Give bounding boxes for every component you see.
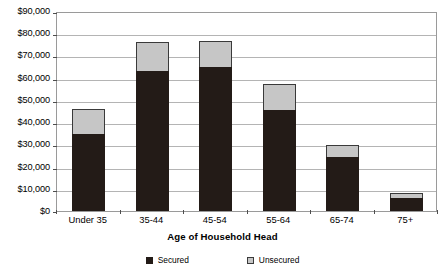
x-tick-label: 55-64 <box>247 214 311 226</box>
x-axis-tick <box>120 210 121 214</box>
x-axis-labels: Under 3535-4445-5455-6465-7475+ <box>56 214 437 230</box>
bars-layer <box>57 13 436 211</box>
x-axis-tick <box>374 210 375 214</box>
legend-swatch-unsecured-icon <box>247 257 254 264</box>
legend-label-unsecured: Unsecured <box>259 255 300 265</box>
bar-segment-secured <box>326 157 359 211</box>
bar-stack <box>199 41 232 211</box>
x-tick-label: Under 35 <box>56 214 120 226</box>
bar-segment-secured <box>199 67 232 211</box>
bar-stack <box>72 109 105 211</box>
bar-group <box>72 13 105 211</box>
y-tick-label: $70,000 <box>17 51 50 60</box>
bar-segment-secured <box>263 110 296 211</box>
y-tick-label: $50,000 <box>17 96 50 105</box>
bar-segment-secured <box>72 134 105 211</box>
y-tick-label: $90,000 <box>17 7 50 16</box>
legend-label-secured: Secured <box>158 255 189 265</box>
bar-group <box>326 13 359 211</box>
x-tick-label: 65-74 <box>310 214 374 226</box>
y-tick-label: $40,000 <box>17 118 50 127</box>
bar-segment-unsecured <box>199 41 232 67</box>
x-axis-tick <box>310 210 311 214</box>
chart-legend: Secured Unsecured <box>0 252 445 268</box>
legend-item-secured: Secured <box>146 255 189 265</box>
legend-item-unsecured: Unsecured <box>247 255 300 265</box>
bar-group <box>199 13 232 211</box>
x-tick-label: 35-44 <box>120 214 184 226</box>
x-axis-tick <box>183 210 184 214</box>
bar-segment-unsecured <box>136 42 169 71</box>
legend-swatch-secured-icon <box>146 257 153 264</box>
x-tick-label: 75+ <box>374 214 438 226</box>
x-tick-label: 45-54 <box>183 214 247 226</box>
bar-group <box>263 13 296 211</box>
y-tick-label: $80,000 <box>17 29 50 38</box>
bar-group <box>136 13 169 211</box>
y-tick-label: $0 <box>40 207 50 216</box>
stacked-bar-chart: $0$10,000$20,000$30,000$40,000$50,000$60… <box>0 0 445 272</box>
y-tick-label: $20,000 <box>17 163 50 172</box>
y-tick-label: $10,000 <box>17 185 50 194</box>
bar-stack <box>326 145 359 211</box>
x-axis-tick <box>247 210 248 214</box>
bar-segment-unsecured <box>263 84 296 110</box>
plot-area <box>56 12 437 212</box>
x-axis-tick <box>437 210 438 214</box>
bar-segment-secured <box>390 198 423 211</box>
bar-segment-unsecured <box>326 145 359 156</box>
y-tick-label: $30,000 <box>17 140 50 149</box>
x-axis-title: Age of Household Head <box>0 231 445 242</box>
bar-stack <box>390 193 423 211</box>
y-axis-labels: $0$10,000$20,000$30,000$40,000$50,000$60… <box>0 0 55 220</box>
y-tick-label: $60,000 <box>17 74 50 83</box>
bar-stack <box>136 42 169 211</box>
bar-group <box>390 13 423 211</box>
bar-segment-secured <box>136 71 169 211</box>
bar-stack <box>263 84 296 211</box>
x-axis-tick <box>56 210 57 214</box>
bar-segment-unsecured <box>72 109 105 135</box>
